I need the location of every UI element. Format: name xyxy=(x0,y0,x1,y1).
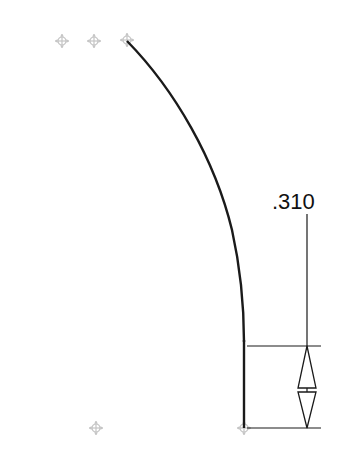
sketch-canvas[interactable] xyxy=(0,0,357,455)
dimension-label[interactable]: .310 xyxy=(272,189,315,215)
sketch-arc[interactable] xyxy=(127,41,244,342)
sketch-point-icon[interactable] xyxy=(89,421,103,435)
arrow-down-icon xyxy=(298,392,316,428)
arrow-up-icon xyxy=(298,346,316,388)
sketch-point-icon[interactable] xyxy=(55,34,69,48)
sketch-point-icon[interactable] xyxy=(87,34,101,48)
